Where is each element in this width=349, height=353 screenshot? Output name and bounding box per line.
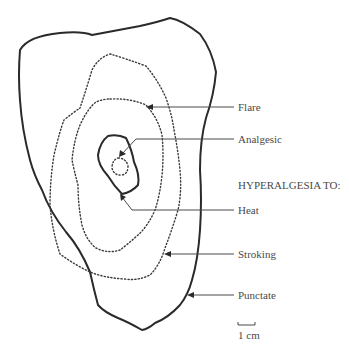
- scale-bar: 1 cm: [238, 322, 260, 341]
- stroking-contour: [72, 99, 163, 252]
- punctate-label: Punctate: [238, 289, 276, 301]
- flare-contour: [50, 54, 181, 280]
- leader-lines: [119, 104, 234, 298]
- hyperalgesia-area-diagram: Flare Analgesic HYPERALGESIA TO: Heat St…: [0, 0, 349, 353]
- analgesic-contour: [112, 158, 128, 175]
- scale-bar-label: 1 cm: [238, 329, 260, 341]
- flare-label: Flare: [238, 101, 261, 113]
- heat-contour: [98, 135, 139, 194]
- heat-label: Heat: [238, 204, 259, 216]
- stroking-label: Stroking: [238, 248, 276, 260]
- hyperalgesia-heading: HYPERALGESIA TO:: [238, 179, 341, 191]
- punctate-contour: [19, 18, 216, 330]
- analgesic-label: Analgesic: [238, 133, 282, 145]
